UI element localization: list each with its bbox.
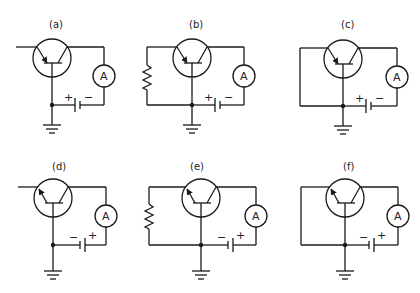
ammeter-icon: A — [386, 66, 408, 88]
svg-text:A: A — [102, 210, 110, 223]
battery-right-sign: + — [377, 229, 386, 242]
panel-label: (f) — [343, 161, 354, 172]
ground-icon — [192, 245, 210, 279]
emitter-arrow-icon — [177, 47, 187, 63]
ammeter-icon: A — [233, 65, 255, 87]
panel-label: (d) — [52, 161, 66, 172]
ground-icon — [183, 105, 201, 133]
emitter-arrow-icon — [39, 189, 47, 203]
emitter-arrow-icon — [331, 189, 339, 203]
battery-right-sign: − — [375, 92, 384, 105]
battery-right-sign: − — [84, 91, 93, 104]
ammeter-icon: A — [95, 205, 117, 227]
panel-label: (c) — [341, 19, 354, 30]
battery-left-sign: − — [69, 231, 78, 244]
battery-right-sign: + — [88, 229, 97, 242]
resistor-icon — [145, 204, 153, 229]
battery-icon — [228, 238, 233, 252]
svg-text:A: A — [393, 71, 401, 84]
transistor-symbol — [182, 179, 220, 245]
panel-label: (e) — [190, 161, 204, 172]
ground-icon — [336, 245, 354, 279]
battery-left-sign: − — [217, 231, 226, 244]
emitter-arrow-icon — [328, 48, 338, 64]
ground-icon — [334, 106, 352, 134]
battery-left-sign: − — [359, 231, 368, 244]
battery-left-sign: + — [355, 92, 364, 105]
ammeter-icon: A — [245, 205, 267, 227]
battery-icon — [80, 238, 85, 252]
svg-text:A: A — [252, 210, 260, 223]
circuit-panel-b: (b) A + − — [143, 19, 255, 133]
battery-left-sign: + — [64, 91, 73, 104]
panel-label: (a) — [49, 19, 63, 30]
battery-icon — [366, 99, 371, 113]
emitter-arrow-icon — [187, 189, 195, 203]
transistor-symbol — [34, 179, 72, 245]
svg-text:A: A — [100, 70, 108, 83]
panel-label: (b) — [189, 19, 203, 30]
ammeter-icon: A — [387, 205, 409, 227]
circuit-panel-d: (d) A − + — [18, 161, 117, 279]
battery-left-sign: + — [204, 91, 213, 104]
battery-right-sign: + — [236, 229, 245, 242]
svg-text:A: A — [394, 210, 402, 223]
battery-icon — [215, 98, 220, 112]
battery-icon — [369, 238, 374, 252]
circuit-panel-c: (c) A + − — [300, 19, 408, 134]
ground-icon — [43, 105, 61, 133]
battery-icon — [75, 98, 80, 112]
circuit-panel-e: (e) A − + — [145, 161, 267, 279]
circuit-panel-f: (f) A − + — [301, 161, 409, 279]
ammeter-icon: A — [93, 65, 115, 87]
svg-text:A: A — [240, 70, 248, 83]
emitter-arrow-icon — [37, 47, 47, 63]
transistor-test-circuits-diagram: (a) A + − (b) — [0, 0, 420, 293]
circuit-panel-a: (a) A + − — [16, 19, 115, 133]
ground-icon — [44, 245, 62, 279]
battery-right-sign: − — [224, 91, 233, 104]
resistor-icon — [143, 65, 151, 90]
